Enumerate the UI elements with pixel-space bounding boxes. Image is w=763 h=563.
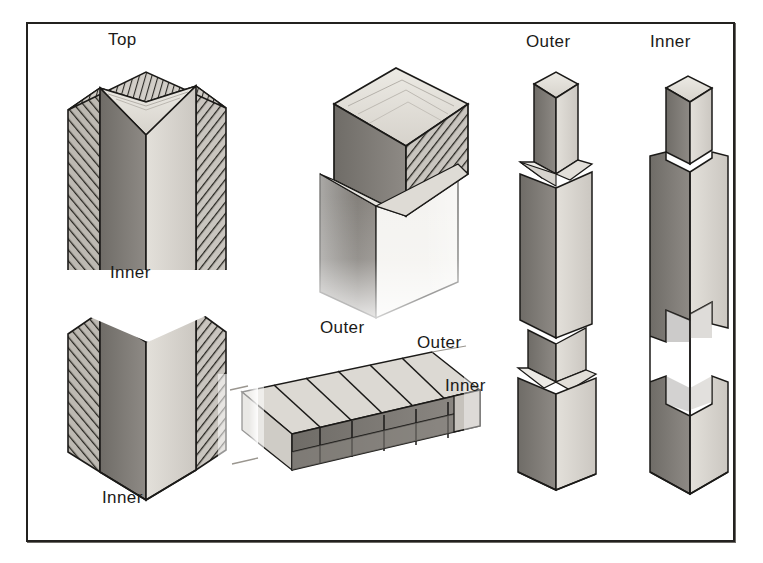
fig-inner-post-member	[624, 52, 754, 522]
label-inner-beam: Inner	[445, 376, 486, 396]
fig-column-cap-joint-detail	[298, 46, 518, 336]
label-outer-post: Outer	[526, 32, 571, 52]
label-outer-beam: Outer	[417, 333, 462, 353]
label-top: Top	[108, 30, 137, 50]
fig-laminated-beam-detail	[218, 334, 508, 484]
illustration-canvas: Top Inner Inner	[0, 0, 763, 563]
inner-post-body	[650, 152, 728, 494]
label-inner-bottom: Inner	[102, 488, 143, 508]
inner-post-head-tenon	[666, 76, 712, 164]
post-main-shaft	[520, 172, 592, 338]
fig-outer-post-member	[498, 52, 618, 522]
post-head-tenon	[534, 72, 578, 174]
label-inner-post: Inner	[650, 32, 691, 52]
post-foot-block	[518, 378, 596, 490]
illustration-plate: Top Inner Inner	[26, 22, 735, 542]
label-inner-break: Inner	[110, 263, 151, 283]
